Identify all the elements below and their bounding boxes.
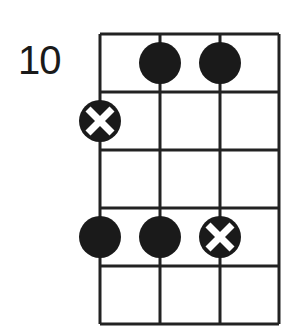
note-dot-icon (199, 42, 241, 84)
note-dot-icon (139, 42, 181, 84)
note-dot-icon (79, 216, 121, 258)
fretboard-diagram (0, 0, 306, 335)
note-dot-icon (139, 216, 181, 258)
